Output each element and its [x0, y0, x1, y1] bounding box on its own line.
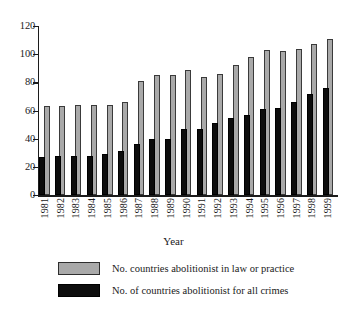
chart-legend: No. countries abolitionist in law or pra… — [58, 257, 338, 301]
bar-group — [39, 26, 55, 195]
bar-all-crimes — [39, 157, 45, 195]
legend-label-all-crimes: No. of countries abolitionist for all cr… — [112, 285, 288, 296]
bar-all-crimes — [149, 139, 155, 195]
y-tick-label: 120 — [20, 21, 35, 32]
bar-all-crimes — [165, 139, 171, 195]
bar-all-crimes — [197, 129, 203, 195]
x-tick-label: 1981 — [40, 198, 50, 218]
bar-all-crimes — [71, 156, 77, 195]
x-tick-label: 1988 — [150, 198, 160, 218]
bar-all-crimes — [87, 156, 93, 195]
bar-all-crimes — [118, 151, 124, 195]
bar-group — [181, 26, 197, 195]
bar-all-crimes — [181, 129, 187, 195]
x-tick-label: 1983 — [71, 198, 81, 218]
bar-all-crimes — [228, 118, 234, 195]
x-axis-line — [38, 195, 338, 197]
bar-group — [133, 26, 149, 195]
x-tick-label: 1994 — [245, 198, 255, 218]
bar-group — [86, 26, 102, 195]
bar-chart-figure: 020406080100120 198119821983198419851986… — [0, 0, 347, 320]
legend-label-in-law-or-practice: No. countries abolitionist in law or pra… — [112, 263, 294, 274]
bar-all-crimes — [244, 115, 250, 195]
legend-item-black: No. of countries abolitionist for all cr… — [58, 279, 338, 301]
x-tick-label: 1997 — [292, 198, 302, 218]
x-axis-tick-labels: 1981198219831984198519861987198819891990… — [39, 198, 338, 234]
bar-all-crimes — [323, 88, 329, 195]
x-tick-label: 1986 — [119, 198, 129, 218]
bar-group — [70, 26, 86, 195]
y-tick-label: 0 — [30, 190, 35, 201]
plot-area: 020406080100120 — [38, 26, 338, 196]
bar-group — [212, 26, 228, 195]
bar-all-crimes — [307, 94, 313, 195]
x-axis-title: Year — [0, 235, 347, 247]
bar-group — [291, 26, 307, 195]
x-tick-label: 1982 — [56, 198, 66, 218]
bar-all-crimes — [55, 156, 61, 195]
y-tick-label: 100 — [20, 49, 35, 60]
x-tick-label: 1995 — [260, 198, 270, 218]
legend-swatch-all-crimes — [58, 284, 100, 297]
x-tick-label: 1985 — [103, 198, 113, 218]
y-tick-label: 60 — [25, 105, 35, 116]
x-tick-label: 1991 — [197, 198, 207, 218]
bar-group — [307, 26, 323, 195]
bar-all-crimes — [275, 108, 281, 195]
x-tick-label: 1993 — [229, 198, 239, 218]
bar-group — [55, 26, 71, 195]
bar-all-crimes — [291, 102, 297, 195]
x-tick-label: 1992 — [213, 198, 223, 218]
x-tick-label: 1984 — [87, 198, 97, 218]
y-tick-label: 80 — [25, 77, 35, 88]
bar-group — [118, 26, 134, 195]
bar-all-crimes — [212, 123, 218, 195]
legend-swatch-in-law-or-practice — [58, 262, 100, 275]
bar-group — [196, 26, 212, 195]
bar-group — [228, 26, 244, 195]
y-tick-label: 20 — [25, 162, 35, 173]
bar-series-container — [39, 26, 338, 195]
bar-group — [102, 26, 118, 195]
x-tick-label: 1989 — [166, 198, 176, 218]
bar-all-crimes — [260, 109, 266, 195]
bar-group — [259, 26, 275, 195]
bar-group — [244, 26, 260, 195]
bar-group — [275, 26, 291, 195]
legend-item-grey: No. countries abolitionist in law or pra… — [58, 257, 338, 279]
bar-group — [165, 26, 181, 195]
bar-group — [322, 26, 338, 195]
y-tick-label: 40 — [25, 133, 35, 144]
bar-all-crimes — [134, 144, 140, 195]
x-tick-label: 1987 — [134, 198, 144, 218]
x-tick-label: 1998 — [307, 198, 317, 218]
bar-all-crimes — [102, 154, 108, 195]
x-tick-label: 1990 — [182, 198, 192, 218]
bar-group — [149, 26, 165, 195]
x-tick-label: 1996 — [276, 198, 286, 218]
x-tick-label: 1999 — [323, 198, 333, 218]
